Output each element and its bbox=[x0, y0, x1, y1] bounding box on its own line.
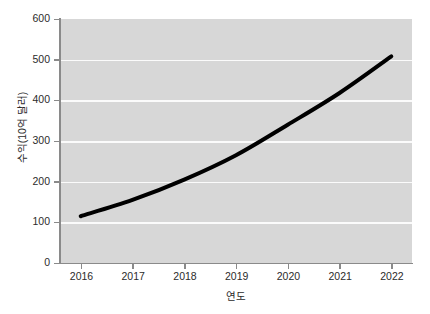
x-tick-mark-2018 bbox=[184, 263, 186, 269]
y-tick-mark-300 bbox=[54, 141, 60, 143]
x-tick-label-2016: 2016 bbox=[60, 271, 104, 282]
x-tick-mark-2019 bbox=[236, 263, 238, 269]
x-tick-label-2021: 2021 bbox=[318, 271, 362, 282]
y-tick-label-100: 100 bbox=[16, 216, 50, 227]
x-tick-label-2019: 2019 bbox=[215, 271, 259, 282]
x-tick-mark-2022 bbox=[391, 263, 393, 269]
x-tick-mark-2020 bbox=[288, 263, 290, 269]
x-tick-mark-2021 bbox=[339, 263, 341, 269]
y-tick-mark-500 bbox=[54, 59, 60, 61]
y-tick-label-600: 600 bbox=[16, 13, 50, 24]
data-series-line bbox=[60, 19, 412, 263]
chart-figure: 600 500 400 300 200 100 0 2016 2017 2018… bbox=[0, 0, 430, 314]
x-tick-label-2020: 2020 bbox=[266, 271, 310, 282]
y-tick-label-0: 0 bbox=[16, 257, 50, 268]
y-axis-title: 수익(10억 달러) bbox=[14, 63, 29, 193]
y-tick-mark-0 bbox=[54, 263, 60, 265]
y-tick-mark-600 bbox=[54, 19, 60, 21]
x-tick-label-2017: 2017 bbox=[111, 271, 155, 282]
y-tick-mark-200 bbox=[54, 181, 60, 183]
x-tick-label-2022: 2022 bbox=[370, 271, 414, 282]
x-tick-mark-2016 bbox=[81, 263, 83, 269]
x-tick-label-2018: 2018 bbox=[163, 271, 207, 282]
y-tick-mark-100 bbox=[54, 222, 60, 224]
y-tick-mark-400 bbox=[54, 100, 60, 102]
plot-area bbox=[60, 19, 412, 263]
x-tick-mark-2017 bbox=[132, 263, 134, 269]
x-axis-title: 연도 bbox=[60, 288, 412, 303]
